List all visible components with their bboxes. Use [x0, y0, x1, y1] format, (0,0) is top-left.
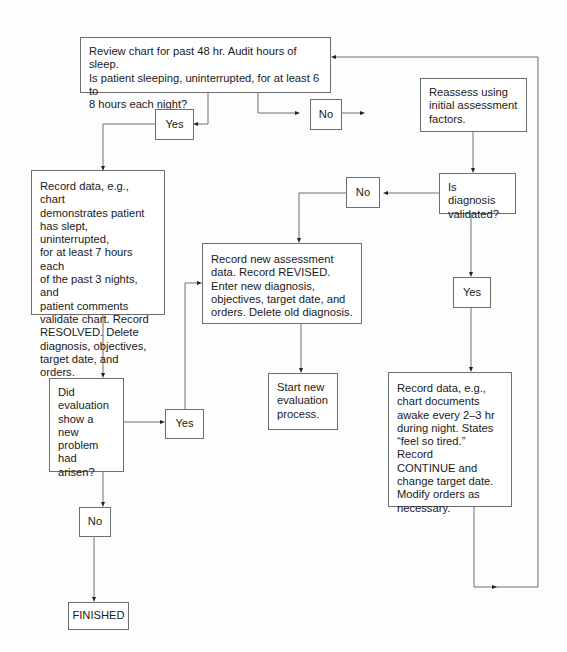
record-continue-box: Record data, e.g., chart documents awake… [388, 372, 512, 507]
record-resolved-box: Record data, e.g., chart demonstrates pa… [31, 170, 165, 315]
no-diagnosis-box: No [346, 177, 380, 208]
no-new-problem-label: No [88, 515, 102, 528]
reassess-text: Reassess using initial assessment factor… [429, 86, 518, 126]
no-diagnosis-label: No [356, 186, 370, 199]
diagnosis-validated-text: Is diagnosis validated? [448, 181, 507, 221]
record-continue-text: Record data, e.g., chart documents awake… [397, 382, 503, 515]
no-top-label: No [319, 108, 333, 121]
new-problem-box: Did evaluation show a new problem had ar… [49, 378, 124, 472]
finished-box: FINISHED [68, 602, 129, 630]
yes-new-problem-box: Yes [165, 409, 204, 439]
start-new-evaluation-text: Start new evaluation process. [277, 381, 329, 421]
record-resolved-text: Record data, e.g., chart demonstrates pa… [40, 180, 156, 379]
start-new-evaluation-box: Start new evaluation process. [268, 373, 338, 430]
review-chart-text: Review chart for past 48 hr. Audit hours… [89, 45, 322, 111]
new-problem-text: Did evaluation show a new problem had ar… [58, 386, 115, 479]
yes-new-problem-label: Yes [175, 417, 193, 430]
yes-diagnosis-box: Yes [453, 277, 491, 308]
review-chart-box: Review chart for past 48 hr. Audit hours… [80, 37, 331, 93]
yes-top-label: Yes [165, 118, 183, 131]
yes-diagnosis-label: Yes [463, 286, 481, 299]
no-new-problem-box: No [79, 507, 111, 537]
finished-label: FINISHED [72, 609, 124, 622]
record-revised-box: Record new assessment data. Record REVIS… [202, 243, 362, 324]
yes-top-box: Yes [155, 109, 194, 140]
diagnosis-validated-box: Is diagnosis validated? [439, 173, 516, 214]
record-revised-text: Record new assessment data. Record REVIS… [211, 253, 353, 319]
reassess-box: Reassess using initial assessment factor… [420, 78, 527, 132]
no-top-box: No [310, 99, 342, 130]
